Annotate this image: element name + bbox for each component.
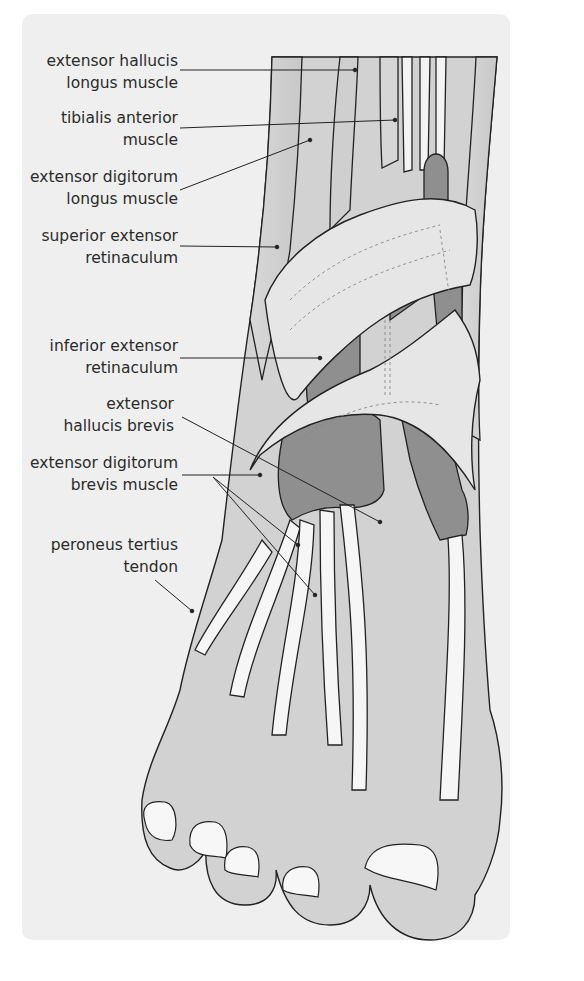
label-extensor-hallucis-brevis: extensor hallucis brevis xyxy=(63,393,174,437)
extensor-hallucis-longus-muscle xyxy=(380,57,398,168)
label-extensor-digitorum-longus: extensor digitorum longus muscle xyxy=(30,166,178,210)
label-extensor-digitorum-brevis: extensor digitorum brevis muscle xyxy=(30,452,178,496)
label-extensor-hallucis-longus: extensor hallucis longus muscle xyxy=(47,50,178,94)
tibialis-anterior-muscle xyxy=(424,154,448,205)
label-tibialis-anterior: tibialis anterior muscle xyxy=(61,107,178,151)
label-peroneus-tertius: peroneus tertius tendon xyxy=(51,534,178,578)
toenail-2 xyxy=(283,867,319,897)
label-inferior-extensor-retinaculum: inferior extensor retinaculum xyxy=(50,335,178,379)
label-superior-extensor-retinaculum: superior extensor retinaculum xyxy=(41,225,178,269)
toenail-3 xyxy=(225,847,259,877)
